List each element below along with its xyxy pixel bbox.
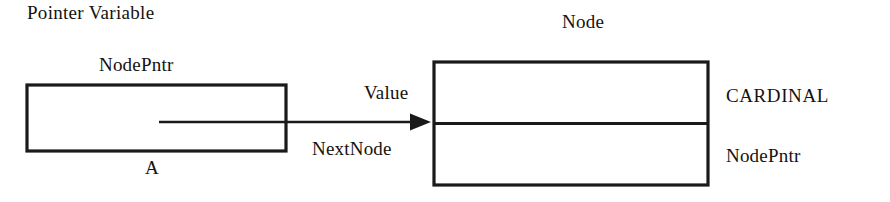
node-field-1-type-label: NodePntr [726, 146, 800, 165]
pointer-variable-type-label: NodePntr [99, 55, 173, 74]
node-heading: Node [562, 12, 604, 31]
nextnode-field-label: NextNode [312, 139, 392, 158]
node-field-0-type-label: CARDINAL [726, 86, 829, 105]
pointer-variable-name-label: A [145, 158, 159, 177]
value-field-label: Value [364, 83, 408, 102]
pointer-variable-heading: Pointer Variable [27, 3, 154, 22]
